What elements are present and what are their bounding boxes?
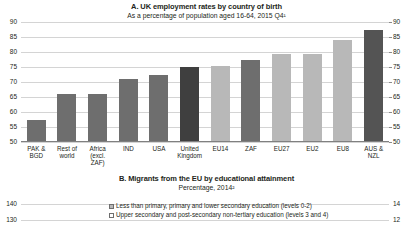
x-axis-category-label: IND [113,145,144,152]
bar-eu8 [333,40,352,142]
y-axis-tick-label-left: 75 [10,64,17,71]
y-axis-tick-mark [389,127,392,128]
x-axis-category-label: USA [144,145,175,152]
gridline [21,220,389,221]
y-axis-tick-label-left: 140 [6,201,17,208]
bar-ind [119,79,138,142]
panel-a-subtitle: As a percentage of population aged 16-64… [0,11,413,20]
bar-pak-bgd [27,120,46,143]
y-axis-tick-label-right: 70 [393,79,400,86]
y-axis-tick-label-left: 70 [10,79,17,86]
x-axis-category-label: EU2 [297,145,328,152]
y-axis-tick-mark [389,112,392,113]
bar-aus-nzl [364,30,383,143]
y-axis-tick-label-right: 60 [393,109,400,116]
bar-eu27 [272,54,291,143]
y-axis-tick-label-right: 75 [393,64,400,71]
bar-eu14 [211,66,230,143]
panel-b-plot-area: 140130 1412 Less than primary, primary a… [21,202,389,232]
legend-label: Upper secondary and post-secondary non-t… [116,211,328,219]
x-axis-category-label: EU14 [205,145,236,152]
y-axis-tick-label-left: 65 [10,94,17,101]
panel-b-subtitle: Percentage, 2014² [0,183,413,192]
gridline [21,37,389,38]
y-axis-tick-label-right: 50 [393,139,400,146]
x-axis-category-label: United Kingdom [174,145,205,159]
y-axis-tick-label-right: 90 [393,19,400,26]
y-axis-tick-label-left: 130 [6,217,17,224]
y-axis-tick-label-left: 60 [10,109,17,116]
bar-united-kingdom [180,67,199,142]
x-axis-category-label: Rest of world [52,145,83,159]
panel-b-migrants-education: B. Migrants from the EU by educational a… [0,172,413,232]
y-axis-tick-label-right: 12 [393,217,400,224]
y-axis-tick-label-left: 50 [10,139,17,146]
legend-item: Upper secondary and post-secondary non-t… [109,211,328,219]
y-axis-tick-label-left: 80 [10,49,17,56]
y-axis-tick-label-right: 80 [393,49,400,56]
y-axis-tick-label-right: 65 [393,94,400,101]
y-axis-tick-mark [389,37,392,38]
panel-a-employment-rates: A. UK employment rates by country of bir… [0,0,413,170]
panel-a-plot-area: 505560657075808590 505560657075808590 PA… [21,22,389,142]
x-axis-category-label: Africa (excl. ZAF) [82,145,113,166]
bar-usa [149,75,168,143]
y-axis-tick-mark [389,142,392,143]
y-axis-tick-mark [389,67,392,68]
x-axis-category-label: EU27 [266,145,297,152]
y-axis-tick-label-left: 90 [10,19,17,26]
bar-rest-of-world [57,94,76,142]
panel-a-baseline [21,141,389,142]
x-axis-category-label: EU8 [328,145,359,152]
x-axis-category-label: ZAF [236,145,267,152]
x-axis-category-label: AUS & NZL [358,145,389,159]
panel-b-title: B. Migrants from the EU by educational a… [0,172,413,183]
gridline [21,142,389,143]
bar-eu2 [303,54,322,143]
y-axis-tick-label-right: 55 [393,124,400,131]
legend-swatch [109,213,114,218]
legend-label: Less than primary, primary and lower sec… [116,202,312,210]
legend-item: Less than primary, primary and lower sec… [109,202,312,210]
panel-a-title: A. UK employment rates by country of bir… [0,0,413,11]
y-axis-tick-label-left: 85 [10,34,17,41]
bar-africa-excl-zaf [88,94,107,142]
y-axis-tick-label-left: 55 [10,124,17,131]
gridline [21,22,389,23]
y-axis-tick-label-right: 85 [393,34,400,41]
x-axis-category-label: PAK & BGD [21,145,52,159]
y-axis-tick-mark [389,97,392,98]
y-axis-tick-mark [389,52,392,53]
bar-zaf [241,60,260,143]
y-axis-tick-mark [389,82,392,83]
y-axis-tick-mark [389,22,392,23]
legend-swatch [109,204,114,209]
y-axis-tick-label-right: 14 [393,201,400,208]
